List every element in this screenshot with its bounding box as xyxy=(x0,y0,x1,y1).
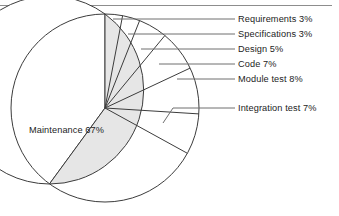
pie-chart-figure: Requirements 3% Specifications 3% Design… xyxy=(0,0,339,216)
callout-label-requirements: Requirements 3% xyxy=(238,14,313,24)
slice-label-maintenance: Maintenance 67% xyxy=(29,125,104,135)
callout-label-module-test: Module test 8% xyxy=(238,74,303,84)
callout-label-design: Design 5% xyxy=(238,44,283,54)
callout-label-specifications: Specifications 3% xyxy=(238,29,312,39)
callout-label-integration-test: Integration test 7% xyxy=(238,103,317,113)
callout-label-code: Code 7% xyxy=(238,59,277,69)
